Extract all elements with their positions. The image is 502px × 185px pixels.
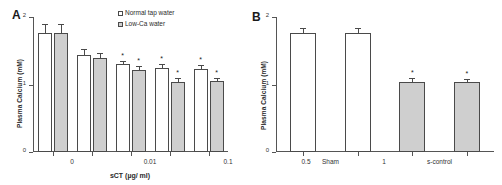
legend-swatch-open-icon [118, 11, 123, 16]
bar [194, 69, 208, 152]
error-bar-cap [214, 78, 220, 79]
figure-container: A Normal tap water Low-Ca water Plasma C… [0, 0, 502, 185]
error-bar-cap [175, 78, 181, 79]
error-bar-cap [58, 24, 64, 25]
legend-item-normal-tap-water: Normal tap water [118, 9, 175, 17]
error-bar-cap [159, 64, 165, 65]
error-bar-cap [97, 53, 103, 54]
x-tick: 0.5 [170, 152, 171, 156]
error-bar-cap [198, 65, 204, 66]
y-tick-label: 1 [23, 80, 26, 86]
x-tick-label: 0.1 [223, 159, 232, 166]
bar [116, 64, 130, 152]
panel-b-letter: B [252, 10, 261, 24]
panel-a-plot-area: 01200.010.1**0.5**1** [33, 17, 228, 152]
bar [132, 70, 146, 152]
bar [399, 82, 425, 152]
x-tick: 0 [53, 152, 54, 156]
significance-marker: * [176, 69, 179, 76]
panel-a-letter: A [12, 8, 21, 22]
error-bar [45, 24, 46, 33]
bar [155, 68, 169, 152]
y-tick: 1 [272, 85, 276, 86]
y-tick: 0 [272, 152, 276, 153]
x-tick: Sham [303, 152, 304, 156]
y-tick-label: 0 [23, 147, 26, 153]
panel-a: A Normal tap water Low-Ca water Plasma C… [0, 0, 248, 185]
error-bar-cap [136, 66, 142, 67]
x-tick: 1 [209, 152, 210, 156]
x-tick: sCT-single dose [467, 152, 468, 156]
panel-b-plot-area: 012Shams-controlsCT-repeated dose*sCT-si… [276, 17, 494, 152]
bar [345, 33, 371, 152]
significance-marker: * [465, 70, 468, 77]
y-tick: 1 [29, 85, 33, 86]
y-tick: 0 [29, 152, 33, 153]
x-tick: sCT-repeated dose [412, 152, 413, 156]
bar [454, 82, 480, 152]
bar [54, 33, 68, 152]
significance-marker: * [160, 55, 163, 62]
x-tick-label: 0 [70, 159, 74, 166]
bar [77, 55, 91, 152]
bar [38, 33, 52, 152]
panel-a-x-axis-label: sCT (µg/ ml) [110, 172, 150, 179]
bar [171, 82, 185, 152]
y-tick-label: 1 [266, 80, 269, 86]
y-tick-label: 2 [266, 12, 269, 18]
legend-label-normal-tap-water: Normal tap water [125, 10, 175, 17]
panel-b-y-axis-label: Plasma Calcium (mM) [260, 61, 267, 130]
significance-marker: * [137, 57, 140, 64]
error-bar-cap [300, 28, 306, 29]
error-bar [61, 24, 62, 33]
error-bar-cap [464, 79, 470, 80]
error-bar-cap [355, 28, 361, 29]
bar [290, 33, 316, 152]
panel-a-y-axis [33, 17, 34, 152]
significance-marker: * [199, 56, 202, 63]
panel-b-y-axis [276, 17, 277, 152]
y-tick: 2 [29, 17, 33, 18]
y-tick-label: 0 [266, 147, 269, 153]
y-tick-label: 2 [23, 12, 26, 18]
error-bar-cap [409, 78, 415, 79]
significance-marker: * [121, 52, 124, 59]
error-bar-cap [120, 61, 126, 62]
x-tick: 0.1 [131, 152, 132, 156]
bar [93, 58, 107, 152]
y-tick: 2 [272, 17, 276, 18]
x-tick: s-control [358, 152, 359, 156]
significance-marker: * [215, 69, 218, 76]
error-bar-cap [42, 24, 48, 25]
panel-b: B Plasma Calcium (mM) 012Shams-controlsC… [248, 0, 502, 185]
x-tick: 0.01 [92, 152, 93, 156]
x-tick-label: s-control [427, 159, 452, 166]
significance-marker: * [411, 69, 414, 76]
x-tick-label: 0.01 [144, 159, 157, 166]
error-bar-cap [81, 49, 87, 50]
x-tick-label: Sham [322, 159, 339, 166]
bar [210, 81, 224, 152]
panel-a-y-axis-label: Plasma Calcium (mM) [16, 59, 23, 128]
